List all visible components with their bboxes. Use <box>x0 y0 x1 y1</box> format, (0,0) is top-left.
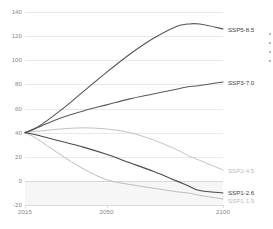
series-lines <box>25 12 223 205</box>
x-axis-line <box>25 205 223 206</box>
y-tick-label: 60 <box>0 106 22 112</box>
cropped-legend-mark <box>269 60 271 62</box>
series-label-ssp1-26: SSP1-2.6 <box>228 189 254 196</box>
series-label-ssp1-19: SSP1-1.9 <box>228 197 254 204</box>
y-tick-label: 40 <box>0 130 22 136</box>
series-line-ssp3-7-0 <box>25 82 223 133</box>
emissions-scenario-chart: 140120100806040200-20 201520502100 SSP5-… <box>0 0 273 229</box>
y-tick-label: 80 <box>0 81 22 87</box>
x-axis-labels: 201520502100 <box>25 208 223 220</box>
y-tick-label: 20 <box>0 154 22 160</box>
x-tick-label: 2015 <box>18 208 32 216</box>
y-tick-label: 120 <box>0 33 22 39</box>
series-label-ssp5-85: SSP5-8.5 <box>228 26 254 33</box>
series-line-ssp1-1-9 <box>25 133 223 199</box>
series-label-ssp2-45: SSP2-4.5 <box>228 167 254 174</box>
x-tick-label: 2100 <box>216 208 230 216</box>
y-tick-label: 100 <box>0 57 22 63</box>
cropped-legend-mark <box>269 33 271 35</box>
cropped-legend-mark <box>269 51 271 53</box>
y-tick-label: 140 <box>0 9 22 15</box>
series-label-ssp3-70: SSP3-7.0 <box>228 79 254 86</box>
y-axis-labels: 140120100806040200-20 <box>0 12 22 205</box>
series-line-ssp5-8-5 <box>25 24 223 133</box>
x-tick-label: 2050 <box>100 208 114 216</box>
cropped-legend-mark <box>269 42 271 44</box>
y-tick-label: 0 <box>0 178 22 184</box>
plot-area <box>25 12 223 205</box>
series-line-ssp2-4-5 <box>25 128 223 170</box>
cropped-legend-marks <box>261 33 273 69</box>
